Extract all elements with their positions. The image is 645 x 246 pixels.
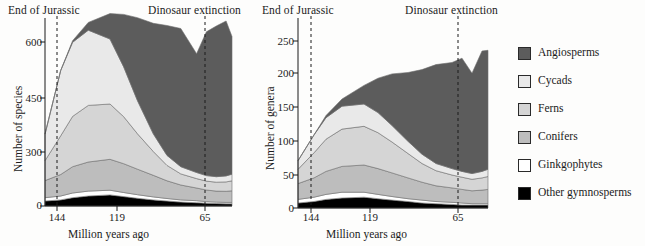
legend-item-ginkgophytes: Ginkgophytes: [518, 158, 603, 172]
chart-svg-genera: [250, 0, 515, 246]
legend-label-conifers: Conifers: [538, 131, 578, 143]
legend-item-cycads: Cycads: [518, 74, 572, 88]
legend-swatch-ginkgophytes-icon: [518, 159, 531, 172]
legend-item-conifers: Conifers: [518, 130, 578, 144]
legend-swatch-other_gymnosperms-icon: [518, 187, 531, 200]
chart-panel-genera: End of Jurassic Dinosaur extinction (b) …: [250, 0, 515, 246]
chart-panel-species: End of Jurassic Dinosaur extinction (a) …: [0, 0, 250, 246]
legend-label-ferns: Ferns: [538, 103, 564, 115]
stacked-areas-genera: [298, 50, 488, 208]
legend-item-ferns: Ferns: [518, 102, 564, 116]
legend-label-other_gymnosperms: Other gymnosperms: [538, 187, 632, 199]
legend-swatch-cycads-icon: [518, 75, 531, 88]
legend-label-angiosperms: Angiosperms: [538, 47, 599, 59]
legend-label-cycads: Cycads: [538, 75, 572, 87]
legend-swatch-ferns-icon: [518, 103, 531, 116]
stacked-areas-species: [45, 14, 232, 206]
chart-legend: AngiospermsCycadsFernsConifersGinkgophyt…: [518, 0, 645, 246]
legend-swatch-angiosperms-icon: [518, 47, 531, 60]
legend-label-ginkgophytes: Ginkgophytes: [538, 159, 603, 171]
legend-item-other_gymnosperms: Other gymnosperms: [518, 186, 632, 200]
legend-swatch-conifers-icon: [518, 131, 531, 144]
chart-svg-species: [0, 0, 250, 246]
legend-item-angiosperms: Angiosperms: [518, 46, 599, 60]
